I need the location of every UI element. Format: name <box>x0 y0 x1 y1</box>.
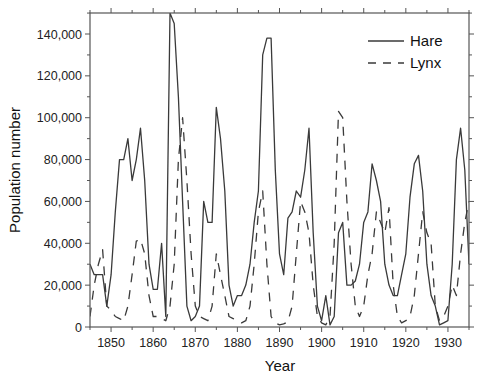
y-tick-label: 40,000 <box>44 237 82 251</box>
y-tick-label: 100,000 <box>37 111 82 125</box>
x-tick-label: 1900 <box>308 336 336 350</box>
x-tick-label: 1860 <box>139 336 167 350</box>
x-tick-label: 1890 <box>266 336 294 350</box>
y-tick-label: 80,000 <box>44 153 82 167</box>
y-tick-label: 0 <box>75 321 82 335</box>
x-tick-label: 1920 <box>392 336 420 350</box>
y-axis-title: Population number <box>6 107 23 233</box>
x-tick-label: 1850 <box>97 336 125 350</box>
x-tick-label: 1930 <box>434 336 462 350</box>
x-tick-label: 1910 <box>350 336 378 350</box>
legend-lynx-label: Lynx <box>410 54 442 71</box>
y-axis-ticks: 020,00040,00060,00080,000100,000120,0001… <box>37 13 474 334</box>
hare-lynx-line-chart: 020,00040,00060,00080,000100,000120,0001… <box>0 0 481 381</box>
y-tick-label: 140,000 <box>37 28 82 42</box>
legend-hare-label: Hare <box>410 32 443 49</box>
y-tick-label: 120,000 <box>37 69 82 83</box>
y-tick-label: 20,000 <box>44 279 82 293</box>
legend: Hare Lynx <box>368 32 443 71</box>
x-tick-label: 1880 <box>223 336 251 350</box>
x-tick-label: 1870 <box>181 336 209 350</box>
y-tick-label: 60,000 <box>44 195 82 209</box>
x-axis-title: Year <box>265 357 295 374</box>
